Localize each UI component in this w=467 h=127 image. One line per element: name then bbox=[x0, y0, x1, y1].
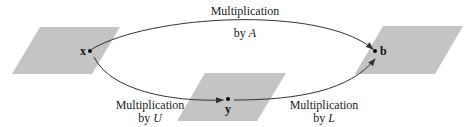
label-top-by: by A bbox=[215, 27, 275, 40]
label-y: y bbox=[225, 102, 231, 117]
label-left-by-prefix: by bbox=[138, 111, 153, 125]
label-b: b bbox=[380, 44, 387, 59]
point-x bbox=[88, 49, 92, 53]
label-right-by-var: L bbox=[328, 111, 335, 125]
label-top-line1: Multiplication bbox=[205, 5, 285, 18]
point-y bbox=[226, 97, 230, 101]
plane-x bbox=[12, 27, 120, 74]
label-top: Multiplication bbox=[205, 5, 285, 18]
label-left: Multiplication by U bbox=[110, 99, 190, 125]
label-top-by-prefix: by bbox=[234, 26, 249, 40]
diagram-canvas bbox=[0, 0, 467, 127]
label-top-by-var: A bbox=[249, 26, 256, 40]
plane-b bbox=[355, 26, 463, 74]
label-x: x bbox=[80, 44, 86, 59]
point-b bbox=[373, 49, 377, 53]
label-left-by-var: U bbox=[153, 111, 162, 125]
label-right: Multiplication by L bbox=[284, 99, 364, 125]
label-right-by-prefix: by bbox=[313, 111, 328, 125]
plane-y bbox=[177, 73, 286, 121]
